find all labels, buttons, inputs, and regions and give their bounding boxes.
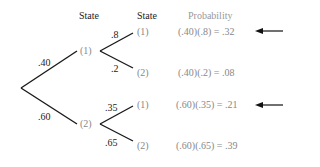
- branch-label-root-1: .40: [38, 58, 51, 68]
- probability-calc-1: (.40)(.8) = .32: [178, 27, 234, 37]
- probability-calc-2: (.40)(.2) = .08: [178, 68, 234, 78]
- header-state-2: State: [137, 11, 157, 21]
- header-probability: Probability: [188, 11, 232, 21]
- branch-label-2-1: .35: [105, 103, 118, 113]
- branch-label-1-1: .8: [111, 30, 119, 40]
- branch-label-2-2: .65: [105, 138, 118, 148]
- branch-label-root-2: .60: [38, 112, 51, 122]
- end-state-1-1: (1): [137, 27, 149, 37]
- node-state-2: (2): [80, 119, 92, 129]
- end-state-2-1: (1): [137, 100, 149, 110]
- header-state-1: State: [79, 11, 99, 21]
- arrow-icon-row1: [255, 28, 283, 34]
- node-state-1: (1): [80, 46, 92, 56]
- arrow-icon-row3: [255, 102, 283, 108]
- probability-calc-4: (.60)(.65) = .39: [176, 141, 237, 151]
- end-state-2-2: (2): [137, 141, 149, 151]
- end-state-1-2: (2): [137, 68, 149, 78]
- branch-label-1-2: .2: [111, 64, 119, 74]
- probability-calc-3: (.60)(.35) = .21: [176, 100, 237, 110]
